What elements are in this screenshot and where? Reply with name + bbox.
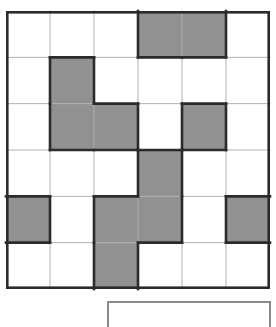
grid-cell[interactable] [226,57,270,103]
grid-cell[interactable] [6,150,50,196]
grid-cell[interactable] [6,243,50,289]
grid-cell[interactable] [182,196,226,242]
grid-cell[interactable] [138,243,182,289]
grid-cell[interactable] [50,104,94,150]
grid-cell[interactable] [6,57,50,103]
grid-cell[interactable] [6,196,50,242]
grid-cell[interactable] [138,57,182,103]
grid-cell[interactable] [182,11,226,57]
grid-cell[interactable] [182,150,226,196]
grid-cell[interactable] [226,104,270,150]
grid-cell[interactable] [94,150,138,196]
grid-cell[interactable] [226,243,270,289]
grid-cell[interactable] [226,11,270,57]
grid-cell[interactable] [50,57,94,103]
grid-cell[interactable] [94,243,138,289]
grid-cell[interactable] [226,150,270,196]
grid-canvas[interactable] [6,11,270,289]
footer-answer-box[interactable] [107,301,271,327]
grid-cell[interactable] [182,104,226,150]
grid-cell[interactable] [138,11,182,57]
grid-cell[interactable] [6,11,50,57]
grid-cell[interactable] [182,243,226,289]
grid-cell[interactable] [182,57,226,103]
grid-cell[interactable] [94,57,138,103]
grid-cell[interactable] [94,196,138,242]
grid-cell[interactable] [94,11,138,57]
shaded-grid[interactable] [6,11,270,289]
grid-cell[interactable] [6,104,50,150]
grid-cell[interactable] [50,11,94,57]
grid-cell[interactable] [138,150,182,196]
grid-cell[interactable] [138,196,182,242]
grid-cell[interactable] [50,243,94,289]
grid-cell[interactable] [138,104,182,150]
grid-cell[interactable] [94,104,138,150]
grid-cell[interactable] [50,196,94,242]
grid-cell[interactable] [226,196,270,242]
grid-cell[interactable] [50,150,94,196]
